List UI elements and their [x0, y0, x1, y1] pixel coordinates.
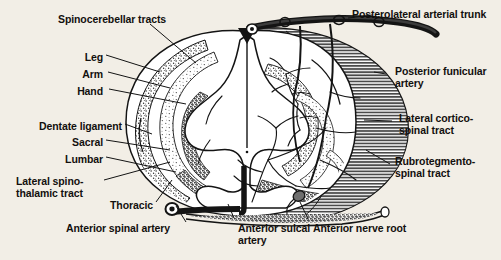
label-anterior-nerve-root: Anterior nerve root — [313, 223, 406, 235]
label-sacral: Sacral — [43, 137, 103, 149]
label-anterior-sulcal-artery: Anterior sulcal artery — [238, 223, 310, 246]
label-spinocerebellar-tracts: Spinocerebellar tracts — [58, 14, 166, 26]
label-posterolateral-arterial-trunk: Posterolateral arterial trunk — [352, 9, 486, 21]
label-anterior-spinal-artery: Anterior spinal artery — [66, 223, 170, 235]
label-rubrotegmentospinal-tract: Rubrotegmento- spinal tract — [395, 156, 475, 179]
spinal-cord-diagram: Spinocerebellar tracts Leg Arm Hand Dent… — [0, 0, 501, 260]
label-lumbar: Lumbar — [43, 154, 103, 166]
label-arm: Arm — [43, 69, 103, 81]
label-hand: Hand — [43, 86, 103, 98]
label-lateral-spinothalamic-tract: Lateral spino- thalamic tract — [16, 176, 83, 199]
label-leg: Leg — [43, 52, 103, 64]
label-lateral-corticospinal-tract: Lateral cortico- spinal tract — [399, 113, 473, 136]
label-posterior-funicular-artery: Posterior funicular artery — [395, 66, 486, 89]
label-thoracic: Thoracic — [110, 200, 153, 212]
label-dentate-ligament: Dentate ligament — [10, 121, 122, 133]
